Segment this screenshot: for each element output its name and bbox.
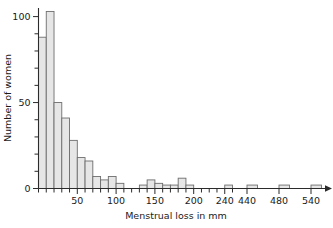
bars-group (39, 11, 322, 188)
histogram-bar (70, 140, 78, 188)
x-axis-tick-label: 50 (71, 195, 83, 206)
y-axis-tick-labels: 050100 (12, 11, 30, 194)
y-axis-ticks (33, 17, 39, 189)
y-axis-tick-label: 0 (24, 183, 30, 194)
histogram-bar (155, 183, 163, 188)
x-axis-tick-label: 440 (238, 195, 256, 206)
y-axis-tick-label: 100 (12, 11, 30, 22)
histogram-bar (147, 180, 155, 189)
x-axis-tick-label: 480 (270, 195, 288, 206)
histogram-bar (116, 183, 124, 188)
chart-canvas: 050100 50100150200240440480540 Menstrual… (0, 0, 333, 228)
histogram-bar (54, 103, 62, 189)
histogram-bar (39, 37, 47, 188)
x-axis-tick-label: 540 (302, 195, 320, 206)
histogram-bar (46, 11, 54, 188)
histogram-bar (108, 176, 116, 188)
x-axis-tick-label: 100 (107, 195, 125, 206)
y-axis-title: Number of women (2, 54, 13, 142)
x-axis-title: Menstrual loss in mm (125, 210, 227, 221)
histogram-bar (77, 158, 85, 189)
y-axis-tick-label: 50 (18, 97, 30, 108)
x-axis-tick-labels: 50100150200240440480540 (71, 195, 320, 206)
x-axis-arrow-icon (325, 185, 332, 192)
x-axis-tick-label: 200 (185, 195, 203, 206)
histogram-bar (101, 180, 109, 189)
histogram-bar (93, 176, 101, 188)
histogram-bar (178, 178, 186, 188)
x-axis-ticks (39, 189, 312, 195)
histogram-bar (62, 118, 70, 188)
x-axis-tick-label: 240 (216, 195, 234, 206)
histogram-bar (85, 161, 93, 189)
histogram-chart: 050100 50100150200240440480540 Menstrual… (0, 0, 333, 228)
x-axis-tick-label: 150 (146, 195, 164, 206)
